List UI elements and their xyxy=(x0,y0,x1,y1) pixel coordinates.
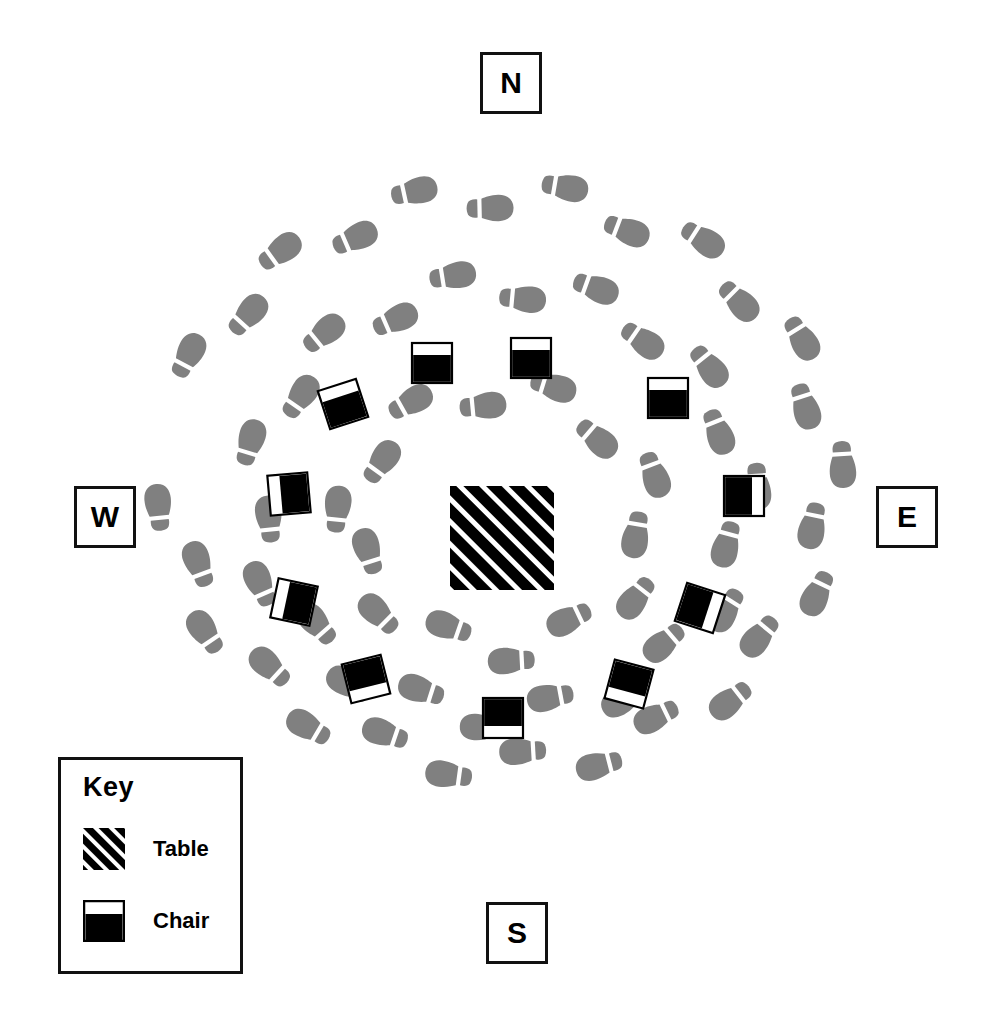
legend-item-chair: Chair xyxy=(83,900,209,942)
compass-south: S xyxy=(486,902,548,964)
chair xyxy=(412,343,452,383)
compass-north: N xyxy=(480,52,542,114)
chair-seat xyxy=(413,355,451,382)
chair xyxy=(511,338,551,378)
chair xyxy=(270,578,317,625)
legend-title: Key xyxy=(83,772,134,803)
table-swatch-icon xyxy=(83,828,125,870)
legend-label-chair: Chair xyxy=(153,908,209,934)
chair-seat xyxy=(484,699,522,726)
chair xyxy=(648,378,688,418)
chair xyxy=(267,472,310,515)
chair xyxy=(483,698,523,738)
chair xyxy=(724,476,764,516)
legend-item-table: Table xyxy=(83,828,209,870)
legend-label-table: Table xyxy=(153,836,209,862)
legend-key: Key Table Chair xyxy=(58,757,243,974)
compass-west: W xyxy=(74,486,136,548)
table xyxy=(450,486,554,590)
chair-seat xyxy=(725,477,752,515)
table-shape xyxy=(450,486,554,590)
chair xyxy=(342,655,390,703)
compass-east: E xyxy=(876,486,938,548)
chair-seat xyxy=(279,474,309,514)
diagram-canvas: N W E S Key Table Chair xyxy=(0,0,981,1033)
chair-swatch-icon xyxy=(83,900,125,942)
chair-seat xyxy=(649,390,687,417)
chair-seat xyxy=(512,350,550,377)
chair xyxy=(605,660,654,709)
